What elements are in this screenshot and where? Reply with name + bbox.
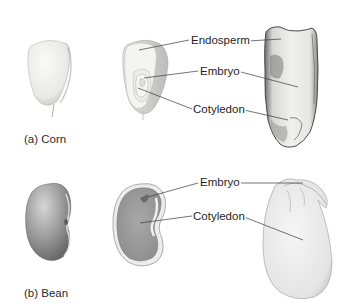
- label-bean-cotyledon: Cotyledon: [192, 210, 246, 223]
- corn-whole-kernel: [28, 40, 71, 117]
- caption-bean: (b) Bean: [24, 287, 68, 300]
- bean-cut-seed: [113, 184, 166, 266]
- corn-side-view-kernel: [265, 27, 318, 147]
- bean-whole-seed: [26, 183, 71, 260]
- label-bean-embryo: Embryo: [199, 176, 241, 189]
- label-corn-endosperm: Endosperm: [190, 34, 251, 47]
- seed-structure-figure: Endosperm Embryo Cotyledon (a) Corn Embr…: [0, 0, 349, 307]
- caption-corn: (a) Corn: [24, 133, 66, 146]
- corn-cut-kernel: [123, 40, 168, 120]
- bean-open-half-seed: [263, 179, 332, 299]
- label-corn-cotyledon: Cotyledon: [192, 103, 246, 116]
- label-corn-embryo: Embryo: [199, 65, 241, 78]
- figure-illustrations: [0, 0, 349, 307]
